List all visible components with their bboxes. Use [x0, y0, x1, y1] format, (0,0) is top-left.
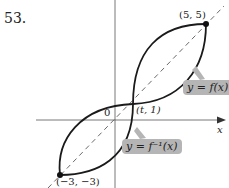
- x-axis-label: x: [217, 124, 223, 135]
- label-point-neg3-neg3: (−3, −3): [56, 176, 100, 187]
- line-y-equals-x: [48, 6, 224, 188]
- label-point-t-1: (t, 1): [136, 104, 161, 115]
- callout-pointer-f-inverse: [134, 127, 146, 139]
- point-5-5: [203, 21, 209, 27]
- callout-y-equals-f: y = f(x): [183, 80, 229, 95]
- x-axis-arrow-icon: [217, 117, 226, 124]
- origin-label: 0: [104, 107, 110, 118]
- callout-y-equals-f-inverse: y = f⁻¹(x): [122, 139, 182, 154]
- label-point-5-5: (5, 5): [179, 9, 206, 20]
